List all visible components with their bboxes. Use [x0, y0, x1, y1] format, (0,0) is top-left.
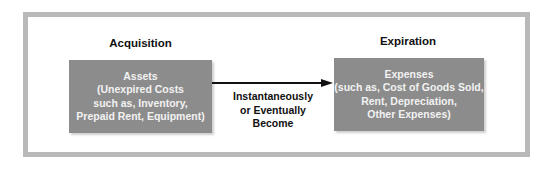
arrow-head-icon — [321, 79, 333, 87]
acquisition-heading: Acquisition — [69, 37, 212, 49]
expenses-line: Other Expenses) — [334, 108, 484, 122]
expenses-box: Expenses (such as, Cost of Goods Sold, R… — [334, 58, 484, 131]
expenses-line: (such as, Cost of Goods Sold, — [334, 81, 484, 95]
connector-line: or Eventually — [218, 104, 328, 118]
expiration-heading: Expiration — [333, 35, 483, 47]
assets-line: (Unexpired Costs — [69, 83, 212, 97]
connector-label: Instantaneously or Eventually Become — [218, 90, 328, 131]
connector-line: Become — [218, 117, 328, 131]
assets-box: Assets (Unexpired Costs such as, Invento… — [69, 60, 212, 133]
assets-line: Prepaid Rent, Equipment) — [69, 110, 212, 124]
expenses-line: Rent, Depreciation, — [334, 95, 484, 109]
arrow-line — [212, 82, 322, 84]
expenses-line: Expenses — [334, 68, 484, 82]
connector-line: Instantaneously — [218, 90, 328, 104]
assets-line: such as, Inventory, — [69, 97, 212, 111]
assets-line: Assets — [69, 70, 212, 84]
